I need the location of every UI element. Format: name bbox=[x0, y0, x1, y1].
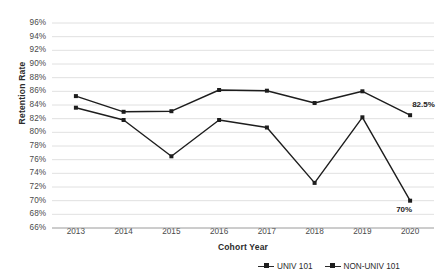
legend-item-non-univ-101[interactable]: NON-UNIV 101 bbox=[325, 262, 400, 271]
data-point-marker bbox=[360, 115, 364, 119]
data-point-marker bbox=[360, 89, 364, 93]
legend-label: NON-UNIV 101 bbox=[344, 262, 400, 271]
x-axis-title: Cohort Year bbox=[52, 242, 434, 252]
data-point-marker bbox=[169, 154, 173, 158]
data-point-marker bbox=[265, 126, 269, 130]
data-point-marker bbox=[408, 113, 412, 117]
data-point-marker bbox=[122, 118, 126, 122]
data-point-marker bbox=[217, 118, 221, 122]
series-line-univ-101 bbox=[76, 90, 410, 115]
data-point-marker bbox=[313, 101, 317, 105]
chart-legend: UNIV 101 NON-UNIV 101 bbox=[258, 259, 400, 273]
data-point-marker bbox=[169, 109, 173, 113]
legend-marker-icon bbox=[258, 262, 274, 270]
data-point-marker bbox=[122, 110, 126, 114]
data-point-marker bbox=[313, 181, 317, 185]
data-point-marker bbox=[265, 89, 269, 93]
legend-marker-icon bbox=[325, 262, 341, 270]
top-margin-strip bbox=[0, 0, 439, 6]
data-point-marker bbox=[408, 199, 412, 203]
legend-label: UNIV 101 bbox=[277, 262, 313, 271]
data-point-marker bbox=[217, 88, 221, 92]
retention-rate-line-chart: Retention Rate 96%94%92%90%88%86%84%82%8… bbox=[0, 0, 439, 277]
plot-area bbox=[0, 0, 439, 277]
data-label: 82.5% bbox=[412, 101, 435, 109]
data-point-marker bbox=[74, 106, 78, 110]
data-label: 70% bbox=[396, 206, 412, 214]
data-point-marker bbox=[74, 94, 78, 98]
legend-item-univ-101[interactable]: UNIV 101 bbox=[258, 262, 313, 271]
